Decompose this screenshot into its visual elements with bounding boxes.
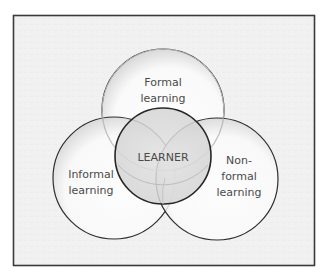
venn-diagram: Formal learning Informal learning Non- f… (0, 0, 327, 278)
non-formal-label-line2: formal (221, 170, 256, 183)
learner-label: LEARNER (137, 151, 188, 164)
non-formal-label-line1: Non- (226, 154, 252, 167)
non-formal-label-line3: learning (217, 186, 262, 199)
informal-label-line1: Informal (68, 168, 114, 181)
formal-label-line1: Formal (144, 76, 182, 89)
informal-label-line2: learning (69, 184, 114, 197)
formal-label-line2: learning (141, 92, 186, 105)
